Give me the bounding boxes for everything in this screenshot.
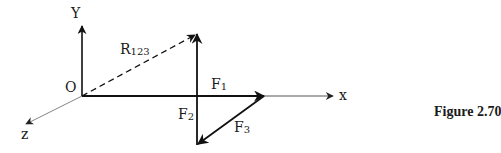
f3-label: F3	[234, 119, 250, 135]
r123-label: R123	[120, 41, 150, 57]
origin-label: O	[65, 79, 76, 95]
figure-caption: Figure 2.70	[434, 104, 501, 120]
z-axis	[26, 96, 82, 124]
y-axis-label: Y	[70, 5, 81, 21]
f1-label: F1	[211, 76, 227, 92]
z-axis-label: z	[21, 126, 28, 142]
f3-vector	[198, 96, 264, 144]
x-axis-label: x	[339, 87, 347, 103]
r123-resultant-vector	[82, 35, 195, 96]
f2-label: F2	[178, 106, 194, 122]
